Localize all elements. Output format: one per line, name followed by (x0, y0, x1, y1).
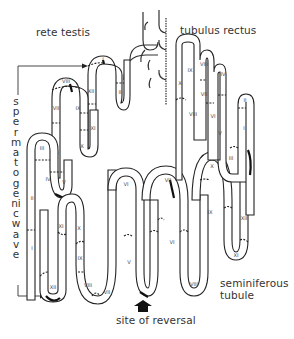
svg-text:X: X (210, 163, 214, 169)
svg-text:IX: IX (77, 255, 83, 261)
svg-text:XII: XII (241, 215, 248, 221)
diagram-canvas: I XII II VIII VII IX VI XI X III (0, 0, 294, 339)
svg-text:IV: IV (45, 176, 51, 182)
svg-text:VII: VII (53, 105, 60, 111)
label-spermatogenic-wave: spermatogenicwave (11, 96, 21, 259)
loop-left-bottom: XII XI X IX VIII VII (40, 170, 116, 304)
svg-text:VII: VII (165, 177, 172, 183)
svg-text:VII: VII (201, 91, 208, 97)
svg-text:VIII: VIII (84, 282, 93, 288)
svg-text:V: V (127, 259, 131, 265)
svg-text:XI: XI (90, 125, 96, 131)
label-site-of-reversal: site of reversal (116, 315, 196, 326)
svg-text:XII: XII (88, 88, 95, 94)
svg-text:III: III (40, 145, 45, 151)
svg-text:VIII: VIII (190, 281, 199, 287)
svg-text:III: III (229, 155, 234, 161)
label-rete-testis: rete testis (36, 27, 90, 38)
svg-text:VI: VI (210, 113, 216, 119)
svg-text:VI: VI (169, 239, 175, 245)
svg-text:X: X (80, 143, 84, 149)
svg-text:X: X (77, 225, 81, 231)
svg-text:VI: VI (123, 181, 129, 187)
svg-text:VIII: VIII (62, 78, 71, 84)
label-seminiferous: seminiferous (220, 278, 289, 289)
svg-text:IX: IX (75, 105, 81, 111)
svg-text:IX: IX (187, 67, 193, 73)
svg-text:XI: XI (233, 252, 239, 258)
svg-text:XI: XI (58, 223, 64, 229)
reversal-arrow-icon (134, 300, 152, 312)
svg-text:XII: XII (50, 284, 57, 290)
svg-text:VIII: VIII (189, 111, 198, 117)
svg-text:V: V (218, 130, 222, 136)
svg-text:VIII: VIII (200, 61, 209, 67)
svg-text:IV: IV (220, 71, 226, 77)
svg-text:VII: VII (104, 289, 111, 295)
svg-text:II: II (243, 97, 247, 103)
label-tubule: tubule (220, 290, 254, 301)
svg-text:II: II (30, 195, 34, 201)
svg-text:X: X (178, 80, 182, 86)
svg-text:IX: IX (207, 209, 213, 215)
svg-text:V: V (62, 179, 66, 185)
svg-text:II: II (118, 89, 122, 95)
label-tubulus-rectus: tubulus rectus (180, 25, 256, 36)
